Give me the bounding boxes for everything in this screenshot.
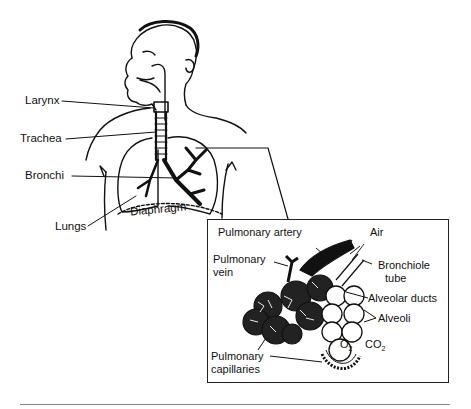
trachea-leader [66,132,156,139]
label-lungs: Lungs [55,220,86,233]
label-alveolar-ducts: Alveolar ducts [368,292,437,305]
label-alveoli: Alveoli [378,312,410,325]
co2-text: CO [365,338,382,350]
label-co2: CO2 [365,338,385,356]
head-outline [131,25,196,105]
label-bronchiole-2: tube [385,272,406,285]
bronchi-leader [72,176,176,178]
o2-text: O [340,338,349,350]
label-o2: O2 [340,338,352,356]
label-air: Air [370,226,383,239]
left-shoulder [86,108,150,160]
bottom-rule [20,404,450,405]
label-capillaries-1: Pulmonary [211,350,264,363]
label-bronchiole-1: Bronchiole [378,259,430,272]
label-bronchi: Bronchi [25,169,64,182]
label-larynx: Larynx [25,94,60,107]
o2-subscript: 2 [349,345,353,352]
co2-subscript: 2 [382,345,386,352]
inset-connector [196,148,288,219]
label-pulmonary-artery: Pulmonary artery [218,226,302,239]
label-pulmonary-vein-1: Pulmonary [213,253,266,266]
label-pulmonary-vein-2: vein [213,266,233,279]
label-trachea: Trachea [20,132,62,145]
label-capillaries-2: capillaries [211,363,260,376]
